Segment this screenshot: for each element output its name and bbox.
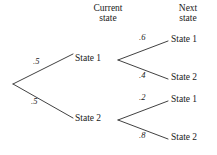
probability-root-to-current-state-2: .5 (31, 97, 37, 106)
node-next-state-2-2: State 2 (171, 133, 197, 143)
probability-current-state-2-to-next-state-2: .8 (139, 131, 145, 140)
edge-root-to-current-state-1 (13, 54, 73, 84)
node-next-state-1-2: State 2 (171, 73, 197, 83)
probability-current-state-1-to-next-state-2: .4 (139, 71, 145, 80)
node-current-state-1: State 1 (75, 54, 101, 64)
node-current-state-2: State 2 (75, 114, 101, 124)
probability-current-state-1-to-next-state-1: .6 (139, 33, 145, 42)
column-header-current-state-line2: state (78, 14, 138, 24)
edge-root-to-current-state-2 (13, 84, 73, 118)
column-header-next-state: Next state (162, 4, 214, 24)
edge-current-state-1-to-next-1 (118, 41, 168, 60)
probability-root-to-current-state-1: .5 (33, 57, 39, 66)
node-next-state-1-1: State 1 (171, 35, 197, 45)
node-next-state-2-1: State 1 (171, 95, 197, 105)
probability-current-state-2-to-next-state-1: .2 (139, 93, 145, 102)
edge-current-state-2-to-next-1 (118, 101, 168, 120)
column-header-current-state: Current state (78, 4, 138, 24)
probability-tree-diagram: Current state Next state .5 .5 State 1 S… (0, 0, 217, 155)
column-header-next-state-line2: state (162, 14, 214, 24)
